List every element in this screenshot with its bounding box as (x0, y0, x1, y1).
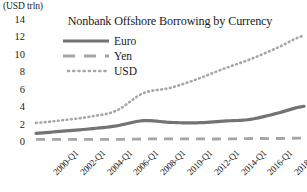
legend-swatch-yen-dashed-line-icon (62, 50, 110, 62)
x-axis-tick-label: 2010-Q1 (185, 148, 214, 177)
y-axis-tick-label: 10 (15, 50, 26, 60)
legend-item-usd: USD (62, 63, 172, 78)
x-axis-tick-label: 2008-Q1 (158, 148, 187, 177)
chart-legend: Euro Yen USD (62, 33, 172, 78)
x-axis-tick-label: 2014-Q1 (239, 148, 268, 177)
x-axis-tick-label: 2000-Q1 (51, 148, 80, 177)
legend-swatch-usd-dotted-line-icon (62, 65, 110, 77)
series-line-yen (36, 138, 304, 139)
y-axis-tick-label: 2 (20, 120, 25, 130)
x-axis-tick-label: 2012-Q1 (212, 148, 241, 177)
legend-swatch-euro-solid-line-icon (62, 35, 110, 47)
x-axis-tick-label: 2004-Q1 (105, 148, 134, 177)
y-axis-tick-label: 4 (20, 102, 25, 112)
legend-label-yen: Yen (114, 50, 132, 62)
y-axis-tick-label: 14 (15, 15, 26, 25)
y-axis-tick-label: 8 (20, 67, 25, 77)
x-axis-tick-label: 2006-Q1 (132, 148, 161, 177)
legend-label-euro: Euro (114, 35, 136, 47)
y-axis-tick-label: 12 (15, 32, 26, 42)
legend-item-yen: Yen (62, 48, 172, 63)
legend-item-euro: Euro (62, 33, 172, 48)
x-axis-tick-label: 2016-Q1 (266, 148, 295, 177)
y-axis-tick-label: 6 (20, 85, 25, 95)
chart-container: (USD trln) Nonbank Offshore Borrowing by… (0, 0, 307, 192)
x-axis: 2000-Q12002-Q12004-Q12006-Q12008-Q12010-… (0, 148, 307, 192)
x-axis-tick-label: 2018-Q1 (292, 148, 307, 177)
x-axis-tick-label: 2002-Q1 (78, 148, 107, 177)
y-axis-tick-label: 0 (20, 137, 25, 147)
legend-label-usd: USD (114, 65, 137, 77)
